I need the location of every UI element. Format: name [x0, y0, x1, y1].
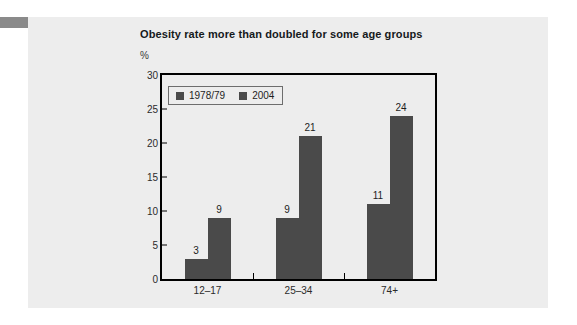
bar-value-label: 3 [193, 245, 199, 256]
bar [390, 116, 413, 279]
y-axis-tick-label: 0 [136, 274, 158, 285]
legend-item[interactable]: 1978/79 [176, 90, 225, 101]
legend-label: 1978/79 [189, 90, 225, 101]
bar-value-label: 11 [373, 190, 383, 201]
legend-swatch-icon [239, 92, 247, 100]
x-axis-category-label: 25–34 [285, 285, 313, 296]
y-axis-tick-mark [162, 211, 167, 212]
y-axis-tick-mark [162, 109, 167, 110]
y-axis-tick-label: 15 [136, 172, 158, 183]
y-axis-tick-label: 5 [136, 240, 158, 251]
plot-frame: 0510152025303912–1792125–34112474+1978/7… [160, 73, 437, 281]
plot-area: 0510152025303912–1792125–34112474+1978/7… [162, 75, 435, 279]
y-axis-unit-label: % [140, 50, 149, 61]
y-axis-tick-label: 30 [136, 70, 158, 81]
x-axis-tick-mark [344, 273, 345, 279]
chart-legend: 1978/792004 [168, 86, 283, 105]
x-axis-category-label: 74+ [381, 285, 398, 296]
legend-label: 2004 [252, 90, 274, 101]
y-axis-tick-label: 25 [136, 104, 158, 115]
bar-value-label: 21 [304, 122, 315, 133]
y-axis-tick-mark [162, 177, 167, 178]
legend-swatch-icon [176, 92, 184, 100]
bar-value-label: 24 [395, 102, 406, 113]
x-axis-tick-mark [253, 273, 254, 279]
x-axis-category-label: 12–17 [194, 285, 222, 296]
bar-value-label: 9 [284, 204, 290, 215]
bar [367, 204, 390, 279]
bar [185, 259, 208, 279]
y-axis-tick-mark [162, 143, 167, 144]
y-axis-tick-label: 20 [136, 138, 158, 149]
bar-value-label: 9 [216, 204, 222, 215]
bar [299, 136, 322, 279]
chart-title: Obesity rate more than doubled for some … [140, 28, 423, 40]
y-axis-tick-label: 10 [136, 206, 158, 217]
bar [208, 218, 231, 279]
legend-item[interactable]: 2004 [239, 90, 274, 101]
chart-panel: Obesity rate more than doubled for some … [28, 17, 548, 308]
bar [276, 218, 299, 279]
page-edge-marker [0, 17, 28, 28]
y-axis-tick-mark [162, 245, 167, 246]
